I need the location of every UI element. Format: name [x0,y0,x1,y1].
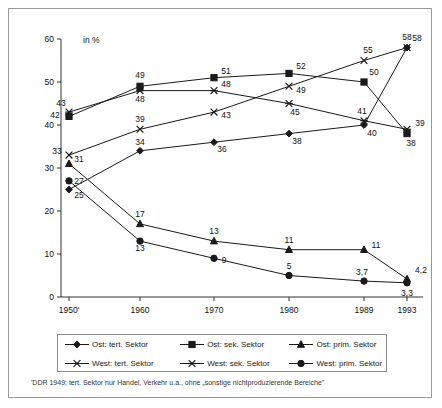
cross-marker-icon [66,152,73,159]
circle-marker-icon [66,178,72,184]
data-point-label: 25 [74,190,84,200]
legend-label: West: tert. Sektor [90,359,154,368]
y-axis-unit-label: in % [83,35,100,45]
data-point-label: 40 [367,128,377,138]
legend-item-west-sek[interactable]: West: sek. Sektor [179,358,288,369]
legend-label: Ost: prim. Sektor [314,340,376,349]
data-point-label: 48 [221,79,231,89]
data-point-label: 3,3 [401,288,413,298]
series-diamond [66,44,411,193]
data-point-label: 43 [221,110,231,120]
x-tick-label: 1950' [59,305,80,315]
diamond-marker-icon [66,186,73,193]
y-tick-label: 20 [45,206,55,216]
data-point-label: 11 [372,240,381,250]
data-point-label: 36 [217,144,227,154]
legend-item-ost-prim[interactable]: Ost: prim. Sektor [288,339,386,350]
data-point-label: 5 [287,261,292,271]
legend-item-ost-tert[interactable]: Ost: tert. Sektor [64,339,179,350]
data-point-label: 27 [74,176,84,186]
legend-label: West: sek. Sektor [205,359,270,368]
circle-marker-icon [288,358,314,369]
data-point-label: 49 [296,85,306,95]
data-point-label: 4,2 [415,265,427,275]
legend-item-ost-sek[interactable]: Ost: sek. Sektor [179,339,288,350]
asterisk-marker-icon [179,358,205,369]
data-point-label: 49 [135,70,145,80]
y-tick-label: 30 [45,163,55,173]
triangle-marker-icon [137,220,144,227]
legend-label: Ost: tert. Sektor [90,340,148,349]
x-tick-label: 1960 [131,305,150,315]
x-tick-label: 1993 [398,305,417,315]
cross-marker-icon [211,109,218,116]
data-point-label: 58 [402,32,412,42]
legend-row-bottom: West: tert. Sektor West: sek. Sektor Wes… [58,354,386,373]
data-point-label: 42 [50,110,60,120]
data-point-label: 38 [292,136,302,146]
x-tick-label: 1980 [280,305,299,315]
data-point-label: 33 [52,146,62,156]
triangle-marker-icon [288,339,314,350]
data-point-label: 45 [290,107,300,117]
y-tick-label: 0 [49,292,54,302]
circle-marker-icon [404,280,410,286]
legend-item-west-prim[interactable]: West: prim. Sektor [288,358,386,369]
triangle-marker-icon [66,160,73,167]
square-marker-icon [189,341,195,347]
asterisk-marker-icon [210,87,218,94]
data-point-label: 13 [135,243,145,253]
y-tick-label: 60 [45,34,55,44]
data-point-label: 17 [135,209,145,219]
data-point-label: 9 [222,255,227,265]
cross-marker-icon [137,126,144,133]
circle-marker-icon [286,272,292,278]
square-marker-icon [286,70,292,76]
data-point-label: 52 [296,61,306,71]
asterisk-marker-icon [188,360,196,367]
chart-plot-area: 0102030405060in %1950'196019701980198919… [9,9,433,325]
data-point-label: 31 [74,154,84,164]
data-point-label: 41 [357,106,367,116]
circle-marker-icon [298,360,304,366]
x-tick-label: 1989 [355,305,374,315]
data-point-label: 3,7 [356,267,368,277]
square-marker-icon [179,339,205,350]
diamond-marker-icon [64,339,90,350]
chart-footnote: 'DDR 1949; tert. Sektor nur Handel, Verk… [31,379,324,386]
diamond-marker-icon [137,147,144,154]
line-chart-svg: 0102030405060in %1950'196019701980198919… [9,9,433,325]
legend-item-west-tert[interactable]: West: tert. Sektor [64,358,179,369]
diamond-marker-icon [74,341,81,348]
data-point-label: 50 [369,67,379,77]
legend-label: Ost: sek. Sektor [205,340,264,349]
data-point-label: 58 [412,33,422,43]
data-point-label: 48 [135,94,145,104]
chart-legend: Ost: tert. Sektor Ost: sek. Sektor Ost: … [57,334,387,372]
legend-label: West: prim. Sektor [314,359,382,368]
y-tick-label: 40 [45,120,55,130]
data-point-label: 55 [363,45,373,55]
square-marker-icon [361,79,367,85]
legend-row-top: Ost: tert. Sektor Ost: sek. Sektor Ost: … [58,335,386,354]
data-point-label: 34 [135,137,145,147]
data-point-label: 43 [56,98,66,108]
data-point-label: 38 [406,138,416,148]
data-point-label: 11 [285,235,294,245]
y-tick-label: 50 [45,77,55,87]
y-tick-label: 10 [45,249,55,259]
cross-marker-icon [286,83,293,90]
cross-marker-icon [361,57,368,64]
circle-marker-icon [361,278,367,284]
series-cross [66,44,411,158]
circle-marker-icon [211,255,217,261]
square-marker-icon [211,75,217,81]
figure-frame: 0102030405060in %1950'196019701980198919… [8,8,432,398]
data-point-label: 39 [135,114,145,124]
data-point-label: 13 [209,226,219,236]
x-tick-label: 1970 [205,305,224,315]
data-point-label: 51 [221,66,231,76]
data-point-label: 39 [415,118,425,128]
cross-marker-icon [64,358,90,369]
